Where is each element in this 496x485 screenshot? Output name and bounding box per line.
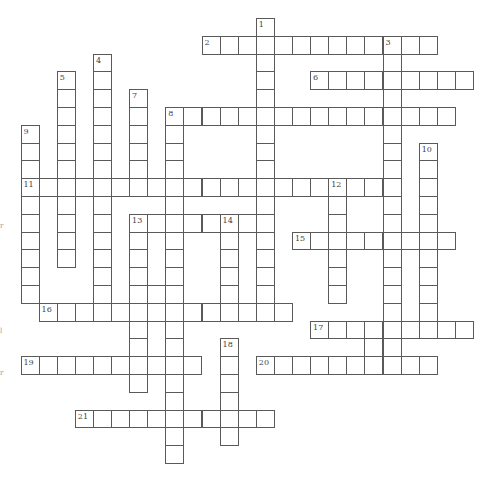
grid-cell[interactable] xyxy=(419,232,438,251)
grid-cell[interactable] xyxy=(383,214,402,233)
grid-cell[interactable] xyxy=(165,356,184,375)
grid-cell[interactable] xyxy=(383,89,402,108)
grid-cell[interactable] xyxy=(39,178,58,197)
grid-cell[interactable] xyxy=(165,338,184,357)
grid-cell[interactable] xyxy=(274,303,293,322)
grid-cell[interactable] xyxy=(256,107,275,126)
grid-cell[interactable] xyxy=(165,249,184,268)
grid-cell[interactable] xyxy=(328,36,347,55)
grid-cell[interactable] xyxy=(383,178,402,197)
grid-cell[interactable] xyxy=(238,214,257,233)
grid-cell[interactable] xyxy=(256,143,275,162)
grid-cell[interactable] xyxy=(21,285,40,304)
grid-cell[interactable] xyxy=(346,36,365,55)
grid-cell[interactable] xyxy=(147,410,166,429)
grid-cell[interactable] xyxy=(401,107,420,126)
grid-cell[interactable] xyxy=(183,178,202,197)
grid-cell[interactable] xyxy=(57,232,76,251)
grid-cell[interactable] xyxy=(75,356,94,375)
grid-cell[interactable] xyxy=(39,356,58,375)
grid-cell[interactable] xyxy=(401,232,420,251)
grid-cell[interactable] xyxy=(129,285,148,304)
grid-cell[interactable] xyxy=(238,303,257,322)
grid-cell[interactable] xyxy=(437,321,456,340)
grid-cell[interactable] xyxy=(165,410,184,429)
grid-cell[interactable] xyxy=(256,232,275,251)
grid-cell[interactable] xyxy=(346,178,365,197)
grid-cell[interactable] xyxy=(220,178,239,197)
grid-cell[interactable] xyxy=(256,89,275,108)
grid-cell[interactable] xyxy=(129,374,148,393)
grid-cell[interactable]: 6 xyxy=(310,71,329,90)
grid-cell[interactable] xyxy=(111,410,130,429)
grid-cell[interactable] xyxy=(364,36,383,55)
grid-cell[interactable] xyxy=(21,143,40,162)
grid-cell[interactable] xyxy=(183,303,202,322)
grid-cell[interactable] xyxy=(401,356,420,375)
grid-cell[interactable] xyxy=(220,285,239,304)
grid-cell[interactable] xyxy=(274,107,293,126)
grid-cell[interactable] xyxy=(21,160,40,179)
grid-cell[interactable] xyxy=(165,125,184,144)
grid-cell[interactable] xyxy=(93,214,112,233)
grid-cell[interactable] xyxy=(256,71,275,90)
grid-cell[interactable] xyxy=(129,178,148,197)
grid-cell[interactable] xyxy=(256,160,275,179)
grid-cell[interactable] xyxy=(401,321,420,340)
grid-cell[interactable] xyxy=(57,214,76,233)
grid-cell[interactable] xyxy=(364,338,383,357)
grid-cell[interactable] xyxy=(256,196,275,215)
grid-cell[interactable] xyxy=(93,178,112,197)
grid-cell[interactable] xyxy=(328,321,347,340)
grid-cell[interactable] xyxy=(383,160,402,179)
grid-cell[interactable] xyxy=(93,125,112,144)
grid-cell[interactable] xyxy=(165,285,184,304)
grid-cell[interactable] xyxy=(57,160,76,179)
grid-cell[interactable] xyxy=(383,267,402,286)
grid-cell[interactable] xyxy=(220,410,239,429)
grid-cell[interactable] xyxy=(256,249,275,268)
grid-cell[interactable] xyxy=(383,303,402,322)
grid-cell[interactable]: 16 xyxy=(39,303,58,322)
grid-cell[interactable] xyxy=(57,303,76,322)
grid-cell[interactable] xyxy=(93,356,112,375)
grid-cell[interactable] xyxy=(165,321,184,340)
grid-cell[interactable] xyxy=(165,143,184,162)
grid-cell[interactable] xyxy=(419,178,438,197)
grid-cell[interactable] xyxy=(292,356,311,375)
grid-cell[interactable] xyxy=(165,214,184,233)
grid-cell[interactable] xyxy=(147,178,166,197)
grid-cell[interactable] xyxy=(419,285,438,304)
grid-cell[interactable] xyxy=(419,107,438,126)
grid-cell[interactable] xyxy=(419,303,438,322)
grid-cell[interactable] xyxy=(93,267,112,286)
grid-cell[interactable]: 1 xyxy=(256,18,275,37)
grid-cell[interactable]: 20 xyxy=(256,356,275,375)
grid-cell[interactable] xyxy=(419,196,438,215)
grid-cell[interactable]: 10 xyxy=(419,143,438,162)
grid-cell[interactable] xyxy=(256,214,275,233)
grid-cell[interactable] xyxy=(57,249,76,268)
grid-cell[interactable] xyxy=(256,125,275,144)
grid-cell[interactable] xyxy=(310,232,329,251)
grid-cell[interactable]: 18 xyxy=(220,338,239,357)
grid-cell[interactable]: 17 xyxy=(310,321,329,340)
grid-cell[interactable] xyxy=(310,107,329,126)
grid-cell[interactable] xyxy=(93,89,112,108)
grid-cell[interactable] xyxy=(165,427,184,446)
grid-cell[interactable] xyxy=(147,214,166,233)
grid-cell[interactable]: 11 xyxy=(21,178,40,197)
grid-cell[interactable] xyxy=(364,107,383,126)
grid-cell[interactable] xyxy=(111,178,130,197)
grid-cell[interactable] xyxy=(147,303,166,322)
grid-cell[interactable] xyxy=(256,267,275,286)
grid-cell[interactable] xyxy=(256,178,275,197)
grid-cell[interactable] xyxy=(165,267,184,286)
grid-cell[interactable] xyxy=(292,36,311,55)
grid-cell[interactable] xyxy=(129,303,148,322)
grid-cell[interactable] xyxy=(111,303,130,322)
grid-cell[interactable]: 13 xyxy=(129,214,148,233)
grid-cell[interactable] xyxy=(364,356,383,375)
grid-cell[interactable] xyxy=(75,303,94,322)
grid-cell[interactable] xyxy=(129,143,148,162)
